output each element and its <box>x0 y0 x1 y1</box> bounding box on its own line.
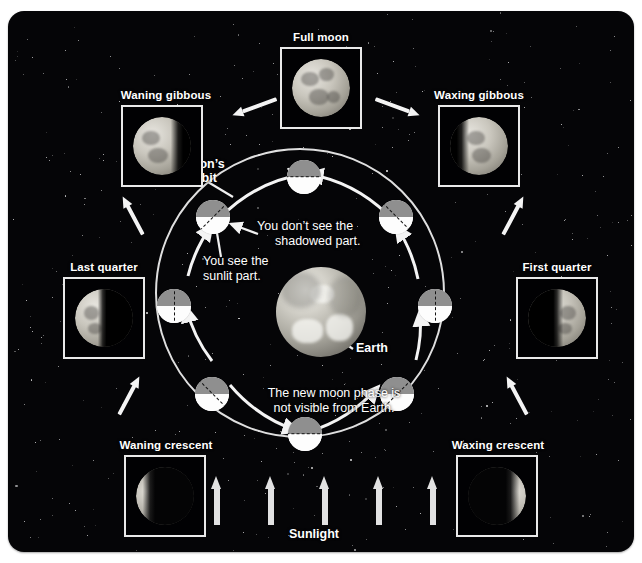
moon-phases-diagram: Moon’s orbit You don’t see the shadowed … <box>0 0 642 563</box>
sunlit-half <box>196 217 230 234</box>
shadowed-part-note-line1: You don’t see the <box>257 219 360 234</box>
shadowed-half <box>196 200 230 217</box>
arrow-shaft <box>376 488 382 525</box>
moon-photo-waning-gibbous <box>133 117 191 175</box>
earth-globe <box>276 267 366 357</box>
moon-photo-full-moon <box>292 59 350 117</box>
sunlight-arrow-1 <box>211 476 222 526</box>
arrow-shaft <box>430 488 436 525</box>
photo-frame-waxing-gibbous <box>438 105 520 187</box>
orbit-moon-waning-gibbous-position <box>196 200 230 234</box>
new-moon-note: The new moon phase is not visible from E… <box>244 386 424 416</box>
moon-photo-first-quarter <box>528 289 586 347</box>
arrow-shaft <box>214 488 220 525</box>
orbit-moon-new-moon-position <box>288 417 322 451</box>
shadowed-half <box>288 417 322 434</box>
caption-full-moon: Full moon <box>263 31 379 43</box>
view-axis-dashed-line <box>435 289 436 323</box>
shadowed-part-note-line2: shadowed part. <box>257 234 360 249</box>
sunlight-arrow-5 <box>427 476 438 526</box>
moon-photo-waxing-gibbous <box>450 117 508 175</box>
orbit-moon-waxing-gibbous-position <box>379 200 413 234</box>
shadowed-half <box>287 160 321 177</box>
new-moon-note-line2: not visible from Earth. <box>244 401 424 416</box>
caption-last-quarter: Last quarter <box>46 261 162 273</box>
photo-frame-last-quarter <box>63 277 145 359</box>
sunlit-half <box>288 434 322 451</box>
night-sky-panel: Moon’s orbit You don’t see the shadowed … <box>8 11 634 552</box>
new-moon-note-line1: The new moon phase is <box>244 386 424 401</box>
sunlit-part-note: You see the sunlit part. <box>203 254 269 284</box>
photo-frame-full-moon <box>280 47 362 129</box>
shadowed-part-note: You don’t see the shadowed part. <box>257 219 360 249</box>
photo-frame-first-quarter <box>516 277 598 359</box>
moon-photo-last-quarter <box>75 289 133 347</box>
caption-waning-crescent: Waning crescent <box>96 439 236 451</box>
moon-photo-waning-crescent <box>136 467 194 525</box>
sunlight-arrow-3 <box>319 476 330 526</box>
photo-frame-waxing-crescent <box>456 455 538 537</box>
sunlit-part-note-line2: sunlit part. <box>203 269 269 284</box>
photo-frame-waning-crescent <box>124 455 206 537</box>
sunlit-part-note-line1: You see the <box>203 254 269 269</box>
arrow-shaft <box>268 488 274 525</box>
orbit-moon-full-moon-position <box>287 160 321 194</box>
orbit-moon-waning-crescent-position <box>195 377 229 411</box>
sunlit-half <box>379 217 413 234</box>
sunlit-half <box>287 177 321 194</box>
view-axis-dashed-line <box>174 289 175 323</box>
sunlight-arrow-4 <box>373 476 384 526</box>
arrow-shaft <box>322 488 328 525</box>
caption-waning-gibbous: Waning gibbous <box>101 89 231 101</box>
photo-frame-waning-gibbous <box>121 105 203 187</box>
caption-waxing-gibbous: Waxing gibbous <box>413 89 545 101</box>
orbit-moon-last-quarter-position <box>157 289 191 323</box>
caption-waxing-crescent: Waxing crescent <box>428 439 568 451</box>
moon-photo-waxing-crescent <box>468 467 526 525</box>
orbit-moon-first-quarter-position <box>418 289 452 323</box>
sunlit-half <box>195 394 229 411</box>
shadowed-half <box>379 200 413 217</box>
caption-first-quarter: First quarter <box>498 261 616 273</box>
sunlight-label: Sunlight <box>289 527 339 541</box>
shadowed-half <box>195 377 229 394</box>
earth-label: Earth <box>356 341 388 355</box>
sunlight-arrow-2 <box>265 476 276 526</box>
